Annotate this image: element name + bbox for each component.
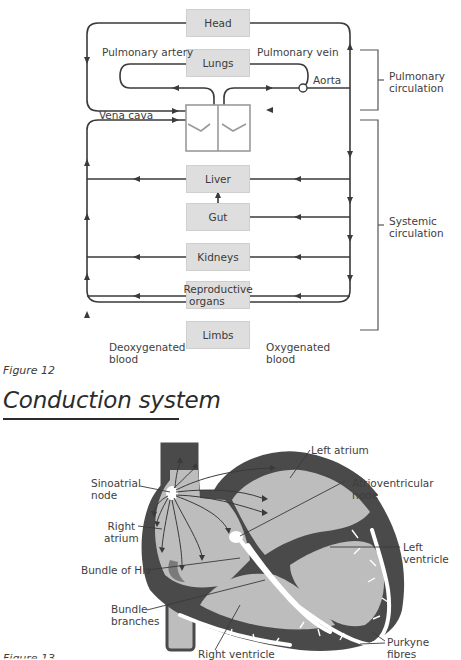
label-oxygenated-1: Oxygenated bbox=[266, 341, 330, 353]
label-purkyne-fibres: Purkyne fibres bbox=[387, 636, 429, 660]
organ-head-label: Head bbox=[204, 17, 231, 29]
label-bundle-branches-1: Bundle bbox=[111, 603, 159, 615]
organ-reproductive-label-2: organs bbox=[187, 295, 225, 307]
label-oxygenated-blood: Oxygenated blood bbox=[266, 341, 330, 365]
label-right-ventricle: Right ventricle bbox=[198, 648, 275, 660]
organ-gut: Gut bbox=[186, 203, 250, 231]
figure-13-caption: Figure 13 bbox=[3, 652, 55, 660]
label-atrioventricular-node: Atrioventricular node bbox=[352, 477, 434, 501]
label-bundle-of-his: Bundle of His bbox=[81, 564, 151, 576]
organ-kidneys: Kidneys bbox=[186, 243, 250, 271]
label-atrioventricular-1: Atrioventricular bbox=[352, 477, 434, 489]
label-right-atrium-2: atrium bbox=[104, 532, 139, 544]
label-deoxygenated-2: blood bbox=[109, 353, 186, 365]
organ-head: Head bbox=[186, 9, 250, 37]
organ-liver: Liver bbox=[186, 165, 250, 193]
label-bundle-branches-2: branches bbox=[111, 615, 159, 627]
label-pulmonary-vein: Pulmonary vein bbox=[257, 46, 339, 58]
section-title-underline bbox=[3, 418, 179, 420]
organ-gut-label: Gut bbox=[209, 211, 228, 223]
bracket-label-pulmonary-2: circulation bbox=[389, 82, 445, 94]
label-deoxygenated-blood: Deoxygenated blood bbox=[109, 341, 186, 365]
bracket-label-pulmonary-1: Pulmonary bbox=[389, 70, 445, 82]
organ-limbs-label: Limbs bbox=[202, 329, 233, 341]
organ-kidneys-label: Kidneys bbox=[197, 251, 238, 263]
figure-12-caption: Figure 12 bbox=[3, 364, 55, 377]
label-left-atrium: Left atrium bbox=[311, 444, 369, 456]
organ-reproductive-label-1: Reproductive bbox=[183, 283, 252, 295]
bracket-label-systemic: Systemic circulation bbox=[389, 215, 444, 239]
label-deoxygenated-1: Deoxygenated bbox=[109, 341, 186, 353]
organ-limbs: Limbs bbox=[186, 321, 250, 349]
label-purkyne-1: Purkyne bbox=[387, 636, 429, 648]
label-atrioventricular-2: node bbox=[352, 489, 434, 501]
label-vena-cava: Vena cava bbox=[99, 109, 153, 121]
label-left-ventricle-1: Left bbox=[403, 541, 449, 553]
organ-lungs-label: Lungs bbox=[202, 57, 233, 69]
bracket-label-pulmonary: Pulmonary circulation bbox=[389, 70, 445, 94]
label-sinoatrial-1: Sinoatrial bbox=[91, 477, 141, 489]
label-oxygenated-2: blood bbox=[266, 353, 330, 365]
label-left-ventricle: Left ventricle bbox=[403, 541, 449, 565]
organ-lungs: Lungs bbox=[186, 49, 250, 77]
organ-liver-label: Liver bbox=[205, 173, 231, 185]
section-title: Conduction system bbox=[3, 387, 221, 413]
label-pulmonary-artery: Pulmonary artery bbox=[102, 46, 193, 58]
organ-reproductive: Reproductive organs bbox=[186, 281, 250, 309]
label-sinoatrial-2: node bbox=[91, 489, 141, 501]
bracket-label-systemic-1: Systemic bbox=[389, 215, 444, 227]
bracket-label-systemic-2: circulation bbox=[389, 227, 444, 239]
label-left-ventricle-2: ventricle bbox=[403, 553, 449, 565]
label-sinoatrial-node: Sinoatrial node bbox=[91, 477, 141, 501]
label-bundle-branches: Bundle branches bbox=[111, 603, 159, 627]
label-aorta: Aorta bbox=[313, 74, 341, 86]
label-right-atrium-1: Right bbox=[104, 520, 139, 532]
label-right-atrium: Right atrium bbox=[104, 520, 139, 544]
label-purkyne-2: fibres bbox=[387, 648, 429, 660]
